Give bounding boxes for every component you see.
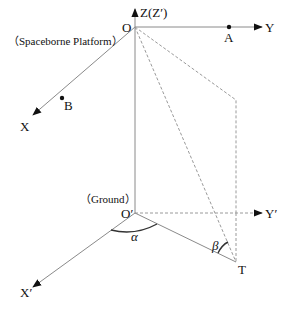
beta-arc (218, 242, 228, 253)
platform-origin-label: O (122, 20, 131, 35)
beta-label: β (211, 238, 219, 253)
y-axis-label: Y (265, 20, 275, 35)
point-a (227, 25, 231, 29)
point-b-label: B (64, 98, 73, 113)
x-prime-axis-label: X′ (20, 285, 32, 300)
x-axis-label: X (20, 119, 30, 134)
target-label: T (238, 262, 246, 277)
ground-to-target-line (135, 213, 236, 262)
z-axis-label: Z(Z′) (140, 5, 167, 20)
y-prime-axis-label: Y′ (265, 206, 277, 221)
dashed-projection-plane (135, 27, 236, 213)
platform-label: （Spaceborne Platform） (8, 35, 123, 47)
ground-origin-label: O′ (121, 206, 133, 221)
ground-label: （Ground） (80, 193, 136, 205)
coordinate-diagram: （Spaceborne Platform） O Z(Z′) Y X A B （G… (0, 0, 296, 314)
point-a-label: A (224, 30, 234, 45)
x-prime-axis (33, 213, 135, 287)
alpha-label: α (131, 229, 139, 244)
